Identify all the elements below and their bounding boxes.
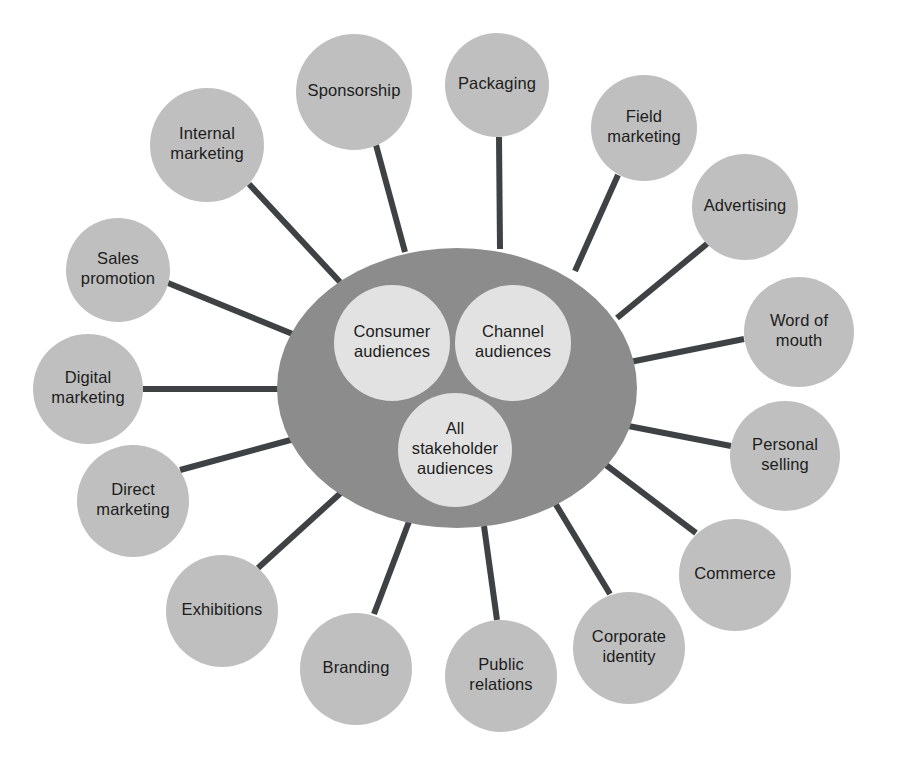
outer-node-advertising[interactable]: Advertising [692, 154, 798, 260]
outer-node-personal-selling[interactable]: Personalselling [730, 401, 840, 511]
outer-node-field-marketing[interactable]: Fieldmarketing [591, 75, 697, 181]
spoke-line-commerce [602, 462, 696, 533]
spoke-line-sponsorship [376, 145, 405, 252]
spoke-line-packaging [499, 137, 500, 249]
outer-node-sponsorship[interactable]: Sponsorship [296, 34, 412, 150]
inner-node-all-stakeholder-audiences[interactable]: Allstakeholderaudiences [398, 393, 512, 507]
outer-node-sales-promotion[interactable]: Salespromotion [66, 218, 170, 322]
node-label: Advertising [704, 196, 787, 214]
outer-node-direct-marketing[interactable]: Directmarketing [77, 445, 189, 557]
spoke-line-sales-promotion [168, 283, 300, 337]
node-label: Packaging [458, 74, 536, 92]
spoke-line-branding [374, 519, 410, 614]
outer-node-word-of-mouth[interactable]: Word ofmouth [744, 277, 854, 387]
node-label: Branding [323, 658, 390, 676]
node-label: Exhibitions [182, 600, 263, 618]
outer-node-commerce[interactable]: Commerce [679, 519, 791, 631]
node-label: Sponsorship [308, 81, 401, 99]
spoke-line-exhibitions [258, 490, 344, 568]
outer-node-digital-marketing[interactable]: Digitalmarketing [33, 334, 143, 444]
inner-node-channel-audiences[interactable]: Channelaudiences [455, 285, 571, 401]
outer-node-corporate-identity[interactable]: Corporateidentity [573, 592, 685, 704]
outer-node-internal-marketing[interactable]: Internalmarketing [150, 88, 264, 202]
node-label: Commerce [694, 564, 775, 582]
spoke-line-internal-marketing [249, 184, 340, 282]
spoke-line-advertising [617, 243, 708, 318]
spoke-line-word-of-mouth [625, 339, 744, 363]
spoke-line-field-marketing [575, 175, 618, 271]
outer-node-exhibitions[interactable]: Exhibitions [166, 555, 278, 667]
spoke-line-corporate-identity [555, 503, 610, 594]
outer-node-public-relations[interactable]: Publicrelations [445, 620, 557, 732]
spoke-line-direct-marketing [180, 438, 298, 470]
spoke-line-public-relations [484, 526, 497, 620]
radial-diagram-canvas: Marketing communications mix radial diag… [0, 0, 898, 760]
radial-diagram-svg: Marketing communications mix radial diag… [0, 0, 898, 760]
outer-node-packaging[interactable]: Packaging [445, 33, 549, 137]
spoke-line-personal-selling [618, 424, 731, 446]
outer-node-branding[interactable]: Branding [300, 613, 412, 725]
inner-node-consumer-audiences[interactable]: Consumeraudiences [334, 285, 450, 401]
